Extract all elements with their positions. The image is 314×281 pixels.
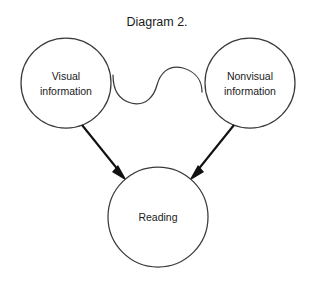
arrow-visual-to-reading-line [82, 125, 119, 171]
node-nonvisual-information: Nonvisual information [205, 38, 295, 128]
wavy-connector-path [113, 67, 202, 104]
diagram-canvas: Diagram 2. Visual information Nonvisual … [0, 0, 314, 281]
connector-visual-nonvisual [113, 67, 202, 104]
visual-information-circle [21, 38, 111, 128]
figure-title: Diagram 2. [126, 15, 187, 29]
nonvisual-information-label-line1: Nonvisual [227, 70, 273, 82]
visual-information-label-line2: information [40, 85, 92, 97]
nonvisual-information-label-line2: information [224, 85, 276, 97]
node-visual-information: Visual information [21, 38, 111, 128]
arrow-visual-to-reading [82, 125, 127, 181]
arrow-visual-to-reading-head [112, 165, 127, 181]
visual-information-label-line1: Visual [52, 70, 80, 82]
node-reading: Reading [108, 167, 208, 267]
diagram-figure: Diagram 2. Visual information Nonvisual … [0, 0, 314, 281]
arrow-nonvisual-to-reading [189, 125, 234, 181]
arrow-nonvisual-to-reading-head [189, 165, 204, 181]
nonvisual-information-circle [205, 38, 295, 128]
arrow-nonvisual-to-reading-line [197, 125, 234, 171]
reading-label: Reading [138, 211, 177, 223]
